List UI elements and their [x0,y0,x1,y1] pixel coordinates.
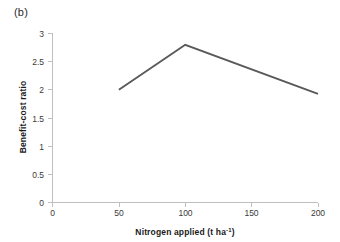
x-tick-label-50: 50 [114,208,124,218]
y-tick-label-2.5: 2.5 [32,57,44,67]
x-axis-title: Nitrogen applied (t ha-1) [135,227,234,237]
y-axis-title: Benefit-cost ratio [18,81,28,154]
figure-panel-b: (b) 0 0.5 1 1.5 2 2.5 3 0 50 100 150 200 [0,0,340,242]
x-axis-title-tail: ) [232,227,235,237]
x-axis-title-main: Nitrogen applied (t ha [135,227,226,237]
x-tick-label-200: 200 [311,208,325,218]
x-tick-label-0: 0 [50,208,55,218]
y-tick-label-0.5: 0.5 [32,170,44,180]
y-tick-label-1: 1 [39,142,44,152]
line-chart: 0 0.5 1 1.5 2 2.5 3 0 50 100 150 200 Nit… [0,0,340,242]
y-tick-label-2: 2 [39,85,44,95]
data-series-line [119,45,318,94]
x-tick-label-150: 150 [244,208,258,218]
y-tick-label-1.5: 1.5 [32,114,44,124]
x-tick-label-100: 100 [178,208,192,218]
y-tick-label-0: 0 [39,198,44,208]
y-tick-label-3: 3 [39,29,44,39]
